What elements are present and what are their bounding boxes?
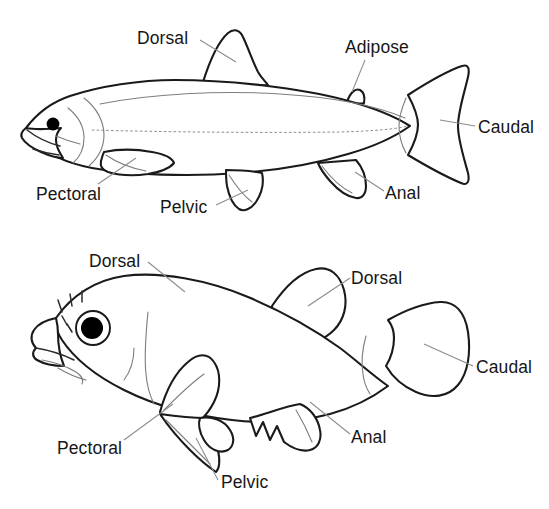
label-perch-caudal: Caudal: [476, 359, 532, 377]
label-perch-dorsal-soft: Dorsal: [351, 270, 402, 288]
trout-anal-fin: [318, 160, 366, 198]
trout-pelvic-fin: [226, 170, 263, 210]
perch-diagram: [0, 240, 549, 509]
trout-eye: [47, 118, 60, 131]
label-trout-adipose: Adipose: [345, 39, 409, 57]
label-trout-caudal: Caudal: [478, 119, 534, 137]
perch-brow-spine-1: [58, 300, 62, 312]
label-perch-dorsal-spiny: Dorsal: [89, 253, 140, 271]
trout-caudal-fin: [408, 65, 469, 183]
trout-lower-jaw: [21, 128, 63, 158]
label-perch-anal: Anal: [351, 429, 386, 447]
trout-diagram: [0, 0, 549, 250]
label-trout-pelvic: Pelvic: [160, 199, 207, 217]
label-trout-dorsal: Dorsal: [137, 30, 188, 48]
perch-caudal-fin: [386, 302, 469, 396]
trout-dorsal-fin: [203, 30, 268, 85]
label-trout-anal: Anal: [385, 185, 420, 203]
perch-eye: [81, 317, 103, 339]
label-perch-pectoral: Pectoral: [57, 440, 122, 458]
fish-anatomy-figure: Dorsal Adipose Caudal Pectoral Pelvic An…: [0, 0, 549, 509]
label-perch-pelvic: Pelvic: [221, 474, 268, 492]
trout-adipose-leader: [352, 60, 365, 92]
label-trout-pectoral: Pectoral: [36, 186, 101, 204]
